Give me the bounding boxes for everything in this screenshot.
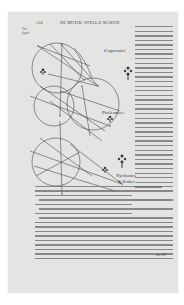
text-line	[135, 44, 173, 45]
text-line	[135, 150, 173, 151]
label-tychonis: Tychonis	[116, 173, 136, 178]
text-line	[35, 190, 173, 191]
text-line	[135, 177, 173, 178]
text-line	[35, 244, 173, 245]
text-line	[135, 72, 173, 73]
text-line	[135, 131, 173, 132]
text-line	[135, 35, 173, 36]
text-line	[135, 86, 173, 87]
text-line	[35, 249, 173, 250]
text-line	[35, 253, 173, 254]
catchword: dis. III	[156, 253, 165, 257]
text-line	[39, 217, 173, 218]
text-line	[135, 140, 173, 141]
body-text-block	[35, 186, 173, 262]
text-line	[135, 49, 173, 50]
text-line	[135, 31, 173, 32]
text-line	[35, 231, 173, 232]
text-line	[135, 136, 173, 137]
text-line	[135, 108, 173, 109]
text-line	[135, 58, 173, 59]
text-line	[135, 67, 173, 68]
text-line	[135, 173, 173, 174]
fleuron-icon-4	[118, 155, 126, 169]
text-line	[35, 235, 173, 236]
text-line	[135, 53, 173, 54]
text-line	[35, 213, 132, 214]
text-line	[135, 90, 173, 91]
text-line	[35, 258, 173, 259]
text-line	[135, 26, 173, 27]
text-line	[135, 159, 173, 160]
text-line	[135, 99, 173, 100]
text-line	[135, 154, 173, 155]
text-line	[135, 40, 173, 41]
text-line	[35, 222, 173, 223]
text-line	[135, 145, 173, 146]
fleuron-icon-3	[107, 116, 113, 122]
label-tychonis-sub: & Braheí	[118, 179, 134, 184]
fleuron-icon-5	[102, 167, 108, 173]
label-copernici: Copernici	[104, 48, 126, 53]
text-line	[35, 226, 173, 227]
text-line	[135, 182, 173, 183]
text-line	[135, 168, 173, 169]
book-page: 110 DE MOTIB. STELLÆ MARTIS Vna figura	[8, 12, 178, 293]
text-line	[135, 127, 173, 128]
text-line	[135, 118, 173, 119]
text-line	[35, 195, 132, 196]
side-text-column	[135, 26, 173, 191]
fleuron-icon-2	[124, 66, 132, 80]
fleuron-icon-1	[40, 69, 46, 75]
text-line	[135, 63, 173, 64]
text-line	[35, 240, 173, 241]
text-line	[135, 163, 173, 164]
running-title: DE MOTIB. STELLÆ MARTIS	[60, 20, 120, 25]
text-line	[39, 208, 173, 209]
text-line	[135, 122, 173, 123]
text-line	[135, 113, 173, 114]
text-line	[135, 81, 173, 82]
text-line	[35, 204, 132, 205]
text-line	[135, 104, 173, 105]
text-line	[135, 95, 173, 96]
text-line	[35, 186, 173, 187]
label-ptolemaei: Ptolemaei	[102, 110, 124, 115]
page-number: 110	[36, 20, 43, 25]
geometric-diagram: Copernici Ptolemaei Tychonis & Braheí	[30, 26, 136, 196]
text-line	[39, 199, 173, 200]
text-line	[135, 76, 173, 77]
